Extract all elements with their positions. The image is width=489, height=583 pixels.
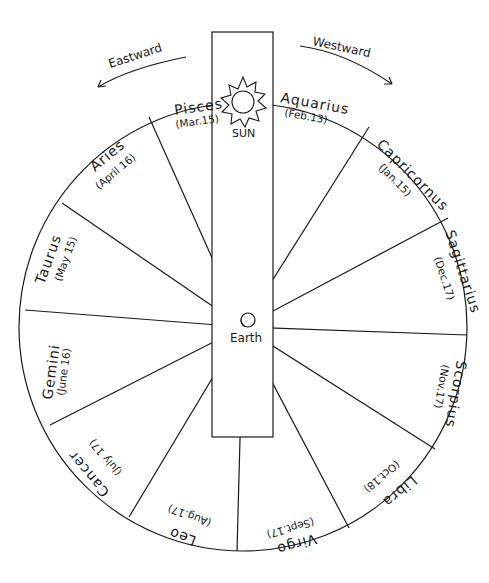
constellation-aquarius: Aquarius (Feb.13)	[279, 89, 350, 125]
constellation-taurus: Taurus (May 15)	[31, 232, 78, 287]
earth-icon	[240, 313, 255, 327]
constellation-virgo: Virgo (Sept.17)	[266, 516, 319, 558]
earth-label: Earth	[230, 331, 262, 345]
constellation-scorpius: Scorpius (Nov.17)	[432, 359, 470, 429]
sun-label: SUN	[232, 127, 255, 140]
constellation-gemini: Gemini (June 16)	[39, 343, 73, 400]
constellation-leo: Leo (Aug.17)	[166, 503, 213, 550]
sun-earth-bar	[212, 32, 273, 437]
zodiac-diagram: SUN Earth Eastward Westward Pisces (Mar.…	[0, 0, 489, 583]
constellation-sagittarius: Sagittarius (Dec.17)	[432, 228, 484, 315]
constellation-cancer: Cancer (July 17)	[64, 437, 123, 500]
constellation-libra: Libra (Oct.18)	[362, 458, 421, 510]
westward-label: Westward	[311, 34, 372, 60]
constellation-capricornus: Capricornus (Jan.15)	[374, 136, 452, 214]
constellation-aries: Aries (April 16)	[87, 136, 138, 191]
eastward-label: Eastward	[107, 40, 164, 70]
svg-text:Leo: Leo	[166, 525, 198, 550]
